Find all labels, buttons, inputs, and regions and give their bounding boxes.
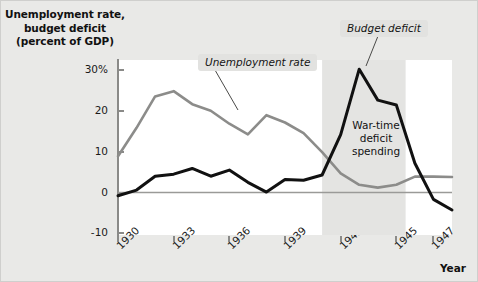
wartime-band-label-line-1: War-time <box>344 119 408 132</box>
chart-figure: Unemployment rate, budget deficit (perce… <box>0 0 478 282</box>
wartime-band-label-line-3: spending <box>344 145 408 158</box>
wartime-band-label-line-2: deficit <box>344 132 408 145</box>
wartime-band-label: War-time deficit spending <box>344 119 408 158</box>
callout-budget-deficit: Budget deficit <box>340 20 428 37</box>
callout-unemployment-rate: Unemployment rate <box>198 54 317 71</box>
